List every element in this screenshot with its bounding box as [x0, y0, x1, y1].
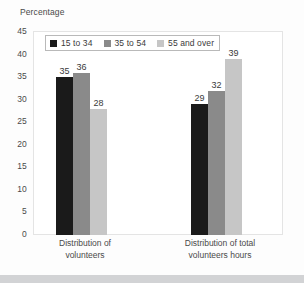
chart-legend: 15 to 34 35 to 54 55 and over [45, 35, 220, 51]
bar-35-to-54-volunteers[interactable]: 36 [73, 73, 90, 235]
legend-item-15-to-34[interactable]: 15 to 34 [50, 38, 93, 48]
legend-label: 55 and over [168, 38, 214, 48]
x-axis-label-volunteers: Distribution of volunteers [30, 238, 140, 261]
legend-swatch-icon [50, 40, 57, 47]
y-axis-tick: 35 [17, 71, 27, 81]
x-axis-label-line: volunteers hours [165, 250, 275, 262]
bar-15-to-34-volunteers[interactable]: 35 [56, 77, 73, 235]
bottom-band [0, 275, 304, 283]
bar-group-distribution-of-volunteers: 35 36 28 [56, 32, 114, 235]
y-axis-tick: 0 [22, 229, 27, 239]
y-axis-tick: 40 [17, 49, 27, 59]
legend-swatch-icon [157, 40, 164, 47]
x-axis-label-line: Distribution of [59, 238, 111, 248]
bar-15-to-34-hours[interactable]: 29 [191, 104, 208, 235]
chart-figure: Percentage 454035302520151050 35 36 28 2… [0, 0, 304, 283]
x-axis-label-line: Distribution of total [185, 238, 255, 248]
y-axis-tick: 20 [17, 139, 27, 149]
bar-55-and-over-volunteers[interactable]: 28 [90, 109, 107, 235]
bar-value-label: 36 [76, 62, 86, 72]
y-axis-tick: 30 [17, 94, 27, 104]
legend-swatch-icon [104, 40, 111, 47]
x-axis-label-line: volunteers [30, 250, 140, 262]
y-axis-tick: 45 [17, 26, 27, 36]
bar-value-label: 39 [228, 48, 238, 58]
y-axis-tick: 15 [17, 161, 27, 171]
y-axis-tick: 5 [22, 206, 27, 216]
bar-55-and-over-hours[interactable]: 39 [225, 59, 242, 235]
bar-value-label: 32 [211, 80, 221, 90]
legend-item-55-and-over[interactable]: 55 and over [157, 38, 214, 48]
y-axis-tick: 10 [17, 184, 27, 194]
y-axis: 454035302520151050 [0, 31, 31, 235]
legend-item-35-to-54[interactable]: 35 to 54 [104, 38, 147, 48]
bar-35-to-54-hours[interactable]: 32 [208, 91, 225, 235]
chart-title: Percentage [20, 7, 64, 17]
y-axis-tick: 25 [17, 116, 27, 126]
legend-label: 35 to 54 [115, 38, 147, 48]
x-axis-label-volunteers-hours: Distribution of total volunteers hours [165, 238, 275, 261]
bar-value-label: 28 [93, 98, 103, 108]
bar-group-distribution-of-total-volunteers-hours: 29 32 39 [191, 32, 249, 235]
bar-value-label: 29 [194, 93, 204, 103]
legend-label: 15 to 34 [61, 38, 93, 48]
bar-value-label: 35 [59, 66, 69, 76]
x-axis: Distribution of volunteers Distribution … [34, 238, 282, 272]
plot-area: 35 36 28 29 32 39 [34, 32, 282, 235]
